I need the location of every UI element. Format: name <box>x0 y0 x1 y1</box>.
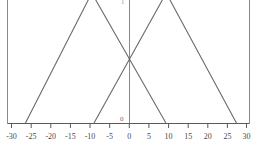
chart-figure: 1 0 -30 -25 -20 -15 -10 -5 0 5 10 15 20 … <box>0 0 256 147</box>
x-axis-ticks <box>12 124 247 129</box>
plot-canvas <box>0 0 256 147</box>
series-right-triangle <box>94 0 237 124</box>
y-axis-top-label: 1 <box>121 0 130 4</box>
y-tick-label-0: 0 <box>120 115 124 123</box>
series-left-triangle <box>25 0 166 124</box>
x-tick-label-30: 30 <box>235 132 256 141</box>
